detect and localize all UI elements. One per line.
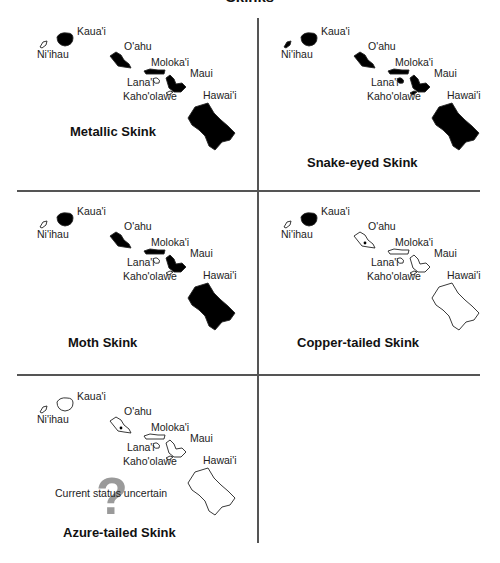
- panel-azure-tailed-skink: Ni'ihauKaua'iO'ahuMoloka'iLana'iMauiKaho…: [0, 370, 240, 550]
- island-oahu-shape: [354, 232, 375, 248]
- island-label-hawaii: Hawai'i: [203, 269, 237, 281]
- panel-title: Metallic Skink: [70, 124, 156, 139]
- island-molokai-shape: [388, 69, 409, 74]
- island-label-lanai: Lana'i: [127, 441, 155, 453]
- island-niihau-shape: [40, 41, 47, 48]
- island-label-hawaii: Hawai'i: [447, 269, 481, 281]
- island-oahu-shape: [110, 232, 131, 248]
- island-hawaii-shape: [188, 103, 235, 150]
- island-label-kahoolawe: Kaho'olawe: [123, 90, 177, 102]
- island-label-oahu: O'ahu: [124, 405, 152, 417]
- island-label-niihau: Ni'ihau: [37, 228, 69, 240]
- island-label-oahu: O'ahu: [124, 220, 152, 232]
- island-molokai-shape: [388, 249, 409, 254]
- island-niihau-shape: [284, 221, 291, 228]
- island-niihau-shape: [40, 221, 47, 228]
- island-kauai-shape: [57, 213, 73, 226]
- island-label-kauai: Kaua'i: [77, 25, 106, 37]
- island-label-kauai: Kaua'i: [77, 390, 106, 402]
- panel-metallic-skink: Ni'ihauKaua'iO'ahuMoloka'iLana'iMauiKaho…: [0, 0, 240, 180]
- island-label-maui: Maui: [434, 67, 457, 79]
- island-label-kauai: Kaua'i: [77, 205, 106, 217]
- island-kauai-shape: [57, 398, 73, 411]
- island-hawaii-shape: [432, 103, 479, 150]
- island-label-oahu: O'ahu: [124, 40, 152, 52]
- island-niihau-shape: [40, 406, 47, 413]
- island-hawaii-shape: [432, 283, 479, 330]
- panel-snake-eyed-skink: Ni'ihauKaua'iO'ahuMoloka'iLana'iMauiKaho…: [252, 0, 492, 180]
- island-label-kahoolawe: Kaho'olawe: [367, 90, 421, 102]
- island-label-kauai: Kaua'i: [321, 25, 350, 37]
- island-kauai-shape: [301, 33, 317, 46]
- island-hawaii-shape: [188, 468, 235, 515]
- status-note: Current status uncertain: [55, 487, 167, 499]
- island-label-kahoolawe: Kaho'olawe: [367, 270, 421, 282]
- island-label-molokai: Moloka'i: [395, 236, 433, 248]
- island-molokai-shape: [144, 69, 165, 74]
- island-molokai-shape: [144, 249, 165, 254]
- island-label-lanai: Lana'i: [127, 76, 155, 88]
- island-label-maui: Maui: [190, 247, 213, 259]
- island-label-molokai: Moloka'i: [151, 421, 189, 433]
- island-label-hawaii: Hawai'i: [203, 454, 237, 466]
- island-label-lanai: Lana'i: [371, 76, 399, 88]
- island-niihau-shape: [284, 41, 291, 48]
- island-oahu-shape: [110, 417, 131, 433]
- island-label-niihau: Ni'ihau: [37, 48, 69, 60]
- island-label-niihau: Ni'ihau: [281, 228, 313, 240]
- island-label-lanai: Lana'i: [127, 256, 155, 268]
- oahu-record-dot: [364, 242, 367, 245]
- island-kauai-shape: [57, 33, 73, 46]
- island-label-maui: Maui: [434, 247, 457, 259]
- island-label-kauai: Kaua'i: [321, 205, 350, 217]
- island-label-maui: Maui: [190, 432, 213, 444]
- island-label-niihau: Ni'ihau: [281, 48, 313, 60]
- island-label-hawaii: Hawai'i: [203, 89, 237, 101]
- island-oahu-shape: [354, 52, 375, 68]
- island-label-kahoolawe: Kaho'olawe: [123, 455, 177, 467]
- island-label-oahu: O'ahu: [368, 220, 396, 232]
- panel-title: Azure-tailed Skink: [63, 525, 176, 540]
- panel-title: Moth Skink: [68, 335, 137, 350]
- oahu-record-dot: [120, 427, 123, 430]
- island-hawaii-shape: [188, 283, 235, 330]
- panel-copper-tailed-skink: Ni'ihauKaua'iO'ahuMoloka'iLana'iMauiKaho…: [252, 185, 492, 365]
- island-label-lanai: Lana'i: [371, 256, 399, 268]
- panel-title: Snake-eyed Skink: [307, 155, 418, 170]
- island-molokai-shape: [144, 434, 165, 439]
- island-label-hawaii: Hawai'i: [447, 89, 481, 101]
- island-label-oahu: O'ahu: [368, 40, 396, 52]
- island-label-niihau: Ni'ihau: [37, 413, 69, 425]
- island-label-maui: Maui: [190, 67, 213, 79]
- island-oahu-shape: [110, 52, 131, 68]
- island-label-molokai: Moloka'i: [151, 236, 189, 248]
- panel-moth-skink: Ni'ihauKaua'iO'ahuMoloka'iLana'iMauiKaho…: [0, 185, 240, 365]
- island-label-molokai: Moloka'i: [395, 56, 433, 68]
- island-label-kahoolawe: Kaho'olawe: [123, 270, 177, 282]
- panel-title: Copper-tailed Skink: [297, 335, 419, 350]
- island-kauai-shape: [301, 213, 317, 226]
- island-label-molokai: Moloka'i: [151, 56, 189, 68]
